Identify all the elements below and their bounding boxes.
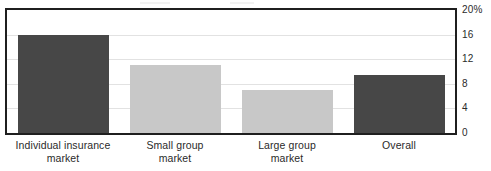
- x-tick-label-line1: Small group: [146, 139, 203, 151]
- bar-4: [354, 75, 445, 133]
- x-tick-label-line2: market: [231, 152, 343, 165]
- x-tick-label-line2: market: [7, 152, 119, 165]
- x-tick-label-2: Small groupmarket: [119, 139, 231, 165]
- scan-artifact: [230, 2, 254, 4]
- x-tick-label-1: Individual insurancemarket: [7, 139, 119, 165]
- y-tick-label-8: 8: [462, 79, 468, 89]
- bar-3: [242, 90, 333, 133]
- bar-chart-figure: 048121620% Individual insurancemarketSma…: [0, 0, 491, 171]
- x-tick-label-4: Overall: [343, 139, 455, 152]
- y-tick-label-12: 12: [462, 54, 474, 64]
- y-tick-label-0: 0: [462, 128, 468, 138]
- y-axis: 048121620%: [462, 0, 491, 145]
- x-tick-label-3: Large groupmarket: [231, 139, 343, 165]
- y-tick-label-4: 4: [462, 103, 468, 113]
- bar-series: [7, 10, 455, 133]
- x-tick-label-line1: Overall: [382, 139, 416, 151]
- scan-artifact: [140, 2, 170, 4]
- x-tick-label-line1: Individual insurance: [16, 139, 111, 151]
- x-tick-label-line2: market: [119, 152, 231, 165]
- y-tick-label-20pct: 20%: [462, 5, 483, 15]
- bar-1: [18, 35, 109, 133]
- bar-2: [130, 65, 221, 133]
- x-tick-label-line1: Large group: [258, 139, 316, 151]
- y-tick-label-16: 16: [462, 30, 474, 40]
- plot-area: [5, 8, 457, 135]
- x-axis: Individual insurancemarketSmall groupmar…: [5, 139, 457, 171]
